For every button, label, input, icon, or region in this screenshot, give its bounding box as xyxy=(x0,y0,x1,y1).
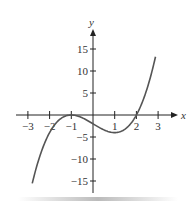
y-axis-arrow-icon xyxy=(90,29,96,36)
bottom-shadow xyxy=(18,197,178,201)
y-tick-label: −5 xyxy=(76,131,88,143)
y-tick-label: 5 xyxy=(83,87,89,99)
x-tick-label: −3 xyxy=(22,120,34,132)
x-axis-label: x xyxy=(180,109,186,121)
x-tick-label: 3 xyxy=(155,120,161,132)
y-tick-label: −15 xyxy=(71,175,89,187)
y-tick-label: −10 xyxy=(71,153,89,165)
x-tick-label: 2 xyxy=(134,120,140,132)
y-axis-label: y xyxy=(88,16,94,28)
cubic-function-plot: xy−3−2−112315105−5−10−15 xyxy=(0,0,196,206)
y-tick-label: 10 xyxy=(77,65,89,77)
axes: xy−3−2−112315105−5−10−15 xyxy=(16,16,186,193)
x-axis-arrow-icon xyxy=(171,112,178,118)
y-tick-label: 15 xyxy=(77,43,89,55)
x-tick-label: 1 xyxy=(112,120,118,132)
